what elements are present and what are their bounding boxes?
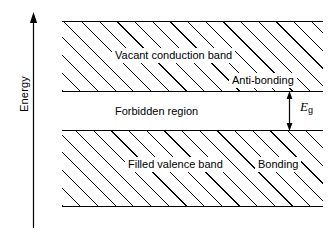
band-gap-symbol: E (300, 99, 308, 114)
energy-band-diagram: Energy Vacant conduction band Anti-bondi… (0, 0, 328, 237)
band-gap-subscript: g (308, 105, 313, 115)
energy-axis-label: Energy (18, 24, 30, 164)
forbidden-region-label: Forbidden region (112, 104, 201, 119)
bonding-label: Bonding (255, 157, 301, 172)
anti-bonding-label: Anti-bonding (229, 73, 297, 88)
valence-band-label: Filled valence band (125, 157, 226, 172)
band-gap-label: Eg (299, 100, 314, 117)
conduction-band-label: Vacant conduction band (112, 48, 235, 63)
band-gap-arrow-icon (283, 90, 296, 132)
